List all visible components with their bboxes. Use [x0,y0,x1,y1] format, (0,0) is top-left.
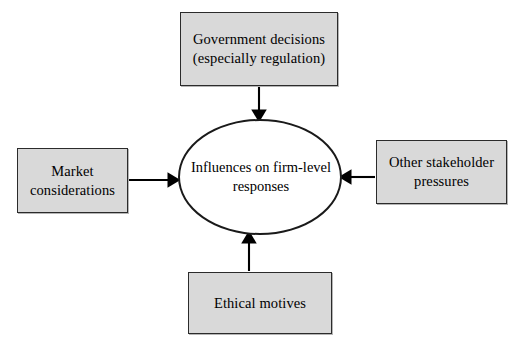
node-market-considerations[interactable]: Market considerations [17,148,128,213]
node-ethical-motives-label: Ethical motives [194,294,326,313]
diagram-canvas: Government decisions (especially regulat… [0,0,524,358]
node-other-stakeholder-pressures-label: Other stakeholder pressures [382,153,501,191]
node-market-considerations-label: Market considerations [23,162,122,200]
node-government-decisions[interactable]: Government decisions (especially regulat… [180,12,338,86]
node-government-decisions-label: Government decisions (especially regulat… [186,30,332,68]
node-center-influences[interactable]: Influences on firm-level responses [178,119,342,235]
node-other-stakeholder-pressures[interactable]: Other stakeholder pressures [376,140,507,204]
node-center-influences-label: Influences on firm-level responses [180,158,340,196]
node-ethical-motives[interactable]: Ethical motives [188,272,332,334]
